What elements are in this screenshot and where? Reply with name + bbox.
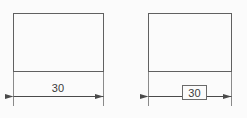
part-rectangle-left — [14, 14, 104, 72]
technical-drawing-canvas: 30 30 — [0, 0, 247, 118]
drawing-svg: 30 30 — [0, 0, 247, 118]
part-rectangle-right — [149, 14, 232, 72]
dimension-value-left: 30 — [52, 82, 65, 94]
basic-dimension-figure: 30 — [149, 14, 232, 107]
toleranced-dimension-figure: 30 — [14, 14, 104, 107]
dimension-value-right: 30 — [188, 87, 201, 99]
